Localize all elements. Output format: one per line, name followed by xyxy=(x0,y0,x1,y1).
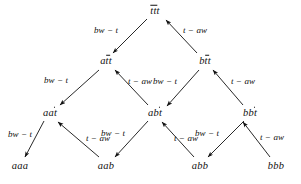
edge-arrows xyxy=(25,19,270,157)
overline-span: tt xyxy=(106,56,112,67)
edge-arrow xyxy=(208,121,244,157)
edge-label: t − aw xyxy=(231,77,255,86)
node-abb: abb xyxy=(192,161,208,172)
edge-label: bw − t xyxy=(94,26,118,35)
node-bbt: bbt xyxy=(243,108,257,119)
node-btt: btt xyxy=(199,56,211,67)
edge-arrow xyxy=(113,19,147,53)
node-att: att xyxy=(100,56,112,67)
edge-label: bw − t xyxy=(44,76,68,85)
edge-label: bw − t xyxy=(153,77,177,86)
edge-arrow xyxy=(25,121,44,157)
node-aat: aat xyxy=(43,108,57,119)
node-aab: aab xyxy=(98,161,114,172)
overline-span: t xyxy=(254,108,257,119)
edge-label: bw − t xyxy=(101,129,125,138)
node-ttt: ttt xyxy=(150,6,159,17)
diagram-edges-layer xyxy=(0,0,301,184)
edge-label: t − aw xyxy=(183,26,207,35)
lattice-diagram: tttattbttaatabtbbtaaaaababbbbb bw − tt −… xyxy=(0,0,301,184)
node-aaa: aaa xyxy=(12,161,28,172)
edge-label: bw − t xyxy=(195,129,219,138)
overline-span: tt xyxy=(205,56,211,67)
edge-label: t − aw xyxy=(128,77,152,86)
overline-span: t xyxy=(159,108,162,119)
edge-label: t − aw xyxy=(260,133,284,142)
overline-span: ttt xyxy=(150,6,159,17)
overline-span: t xyxy=(54,108,57,119)
node-abt: abt xyxy=(148,108,162,119)
edge-label: bw − t xyxy=(8,130,32,139)
edge-arrow xyxy=(115,121,148,157)
node-bbb: bbb xyxy=(268,161,284,172)
